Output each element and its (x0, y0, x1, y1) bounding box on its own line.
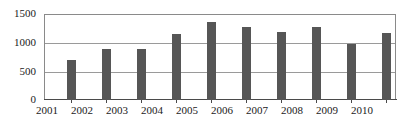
x-axis-tick-2006 (246, 100, 247, 103)
x-axis-label-2009: 2009 (307, 104, 347, 116)
bars-layer (44, 14, 396, 100)
bar-2006 (242, 27, 251, 100)
x-axis-label-2002: 2002 (62, 104, 102, 116)
y-axis-label-500: 500 (0, 66, 36, 77)
x-axis-label-2007: 2007 (237, 104, 277, 116)
bar-chart: 1500 1000 500 0 2001 2002 2003 2004 2005… (0, 0, 410, 128)
x-axis-tick-2005 (211, 100, 212, 103)
x-axis-tick-2009 (351, 100, 352, 103)
x-axis-label-2004: 2004 (132, 104, 172, 116)
x-axis-tick-2007 (281, 100, 282, 103)
x-axis-label-2005: 2005 (167, 104, 207, 116)
bar-2002 (102, 49, 111, 100)
bar-2001 (67, 60, 76, 100)
bar-2008 (312, 27, 321, 100)
bar-2010 (382, 33, 391, 100)
x-axis-label-2003: 2003 (97, 104, 137, 116)
y-axis-label-1500: 1500 (0, 8, 36, 19)
bar-2009 (347, 44, 356, 100)
x-axis-tick-2002 (106, 100, 107, 103)
bar-2005 (207, 22, 216, 100)
x-axis-label-2010: 2010 (342, 104, 382, 116)
bar-2003 (137, 49, 146, 100)
x-axis-label-2006: 2006 (202, 104, 242, 116)
x-axis-tick-2010 (386, 100, 387, 103)
x-axis-tick-2004 (176, 100, 177, 103)
x-axis-label-2008: 2008 (272, 104, 312, 116)
x-axis-tick-2003 (141, 100, 142, 103)
x-axis-tick-2001 (71, 100, 72, 103)
bar-2004 (172, 34, 181, 100)
bar-2007 (277, 32, 286, 100)
x-axis-tick-2008 (316, 100, 317, 103)
x-axis-label-2001: 2001 (27, 104, 67, 116)
y-axis-label-1000: 1000 (0, 37, 36, 48)
